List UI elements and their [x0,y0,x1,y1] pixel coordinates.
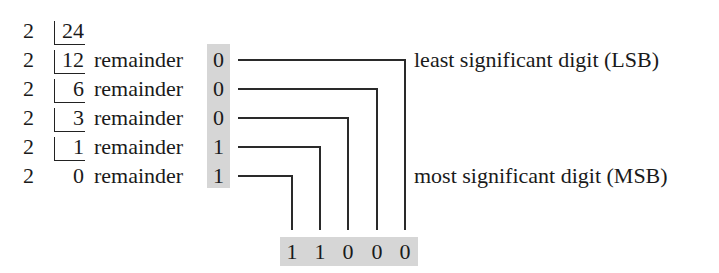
connector-line-lsb [238,59,406,61]
divisor: 2 [23,132,37,161]
result-digit: 1 [310,237,330,266]
remainder-label: remainder [94,74,183,103]
divisor: 2 [23,74,37,103]
result-digit: 0 [395,237,415,266]
connector-line [238,146,320,148]
remainder-digit: 0 [207,74,230,103]
remainder-digit: 0 [207,103,230,132]
connector-drop [404,59,406,230]
division-bracket [54,137,85,161]
divisor: 2 [23,161,37,190]
division-bracket [54,79,85,103]
divisor: 2 [23,103,37,132]
msb-annotation: most significant digit (MSB) [414,161,668,190]
divisor: 2 [23,16,37,45]
divisor: 2 [23,45,37,74]
connector-line-msb [238,175,292,177]
connector-drop [291,175,293,230]
connector-line [238,117,348,119]
result-digit: 0 [367,237,387,266]
connector-drop [376,88,378,230]
remainder-digit: 1 [207,161,230,190]
remainder-label: remainder [94,132,183,161]
division-bracket [54,21,85,45]
result-digit: 0 [338,237,358,266]
connector-drop [347,117,349,230]
remainder-label: remainder [94,45,183,74]
lsb-annotation: least significant digit (LSB) [414,45,659,74]
remainder-digit: 1 [207,132,230,161]
division-bracket [54,108,85,132]
result-digit: 1 [282,237,302,266]
quotient: 0 [54,161,84,190]
remainder-digit: 0 [207,45,230,74]
connector-drop [319,146,321,230]
remainder-label: remainder [94,161,183,190]
connector-line [238,88,378,90]
division-bracket [54,50,85,74]
remainder-label: remainder [94,103,183,132]
